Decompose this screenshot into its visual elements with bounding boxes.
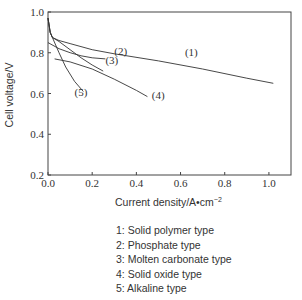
x-tick-label: 0.4 [129,177,143,189]
y-tick-label: 0.4 [30,128,44,140]
x-tick-label: 0.0 [41,177,55,189]
legend-item-3: 3: Molten carbonate type [116,252,232,267]
x-tick-label: 0.8 [218,177,232,189]
curve-label-4: (4) [152,89,165,102]
x-axis-label: Current density/A•cm−2 [115,196,222,208]
y-tick-label: 0.8 [30,47,44,59]
curve-labels: (1)(2)(3)(4)(5) [75,45,199,102]
curve-label-5: (5) [75,86,88,99]
y-tick-label: 1.0 [30,6,44,18]
series-line-3 [48,18,103,71]
x-tick-label: 1.0 [262,177,276,189]
y-tick-label: 0.6 [30,88,44,100]
legend-item-4: 4: Solid oxide type [116,267,232,282]
curve-label-3: (3) [105,54,118,67]
legend-item-2: 2: Phosphate type [116,238,232,253]
curve-label-1: (1) [185,46,198,59]
chart: 0.20.40.60.81.0 0.00.20.40.60.81.0 (1)(2… [0,0,302,225]
x-axis-label-superscript: −2 [214,196,222,203]
series-line-4 [55,59,148,97]
legend-item-5: 5: Alkaline type [116,281,232,296]
x-tick-label: 0.6 [174,177,188,189]
x-tick-label: 0.2 [85,177,99,189]
y-axis-label: Cell voltage/V [3,63,15,128]
series-line-1 [48,18,273,83]
legend: 1: Solid polymer type 2: Phosphate type … [116,223,232,296]
legend-item-1: 1: Solid polymer type [116,223,232,238]
x-axis-label-text: Current density/A•cm [115,196,214,208]
